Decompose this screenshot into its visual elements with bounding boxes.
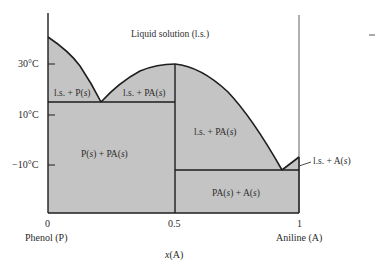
- xtick-label-05: 0.5: [168, 219, 181, 229]
- phase-diagram: [0, 0, 378, 266]
- label-ls-p: l.s. + P(s): [54, 89, 91, 99]
- ls-pa1-post: ): [162, 88, 165, 98]
- xtick-label-1: 1: [297, 219, 302, 229]
- label-ls-pa-left: l.s. + PA(s): [123, 89, 166, 99]
- label-liquid-solution: Liquid solution (l.s.): [131, 30, 209, 40]
- ytick-label-30: 30°C: [18, 59, 39, 69]
- p-pa-3: ): [125, 149, 128, 159]
- pa-a-1: PA(: [212, 188, 226, 198]
- ls-a-pre: l.s. + A(: [313, 156, 344, 166]
- label-ls-pa-right: l.s. + PA(s): [194, 128, 237, 138]
- phenol-label: Phenol (P): [25, 233, 68, 243]
- ls-p-pre: l.s. + P(: [54, 88, 84, 98]
- ls-pa2-post: ): [233, 127, 236, 137]
- label-pa-a: PA(s) + A(s): [212, 189, 260, 199]
- region-ls-pa-right-fill: [175, 64, 282, 170]
- ls-pa2-pre: l.s. + PA(: [194, 127, 230, 137]
- xtick-label-0: 0: [45, 219, 50, 229]
- label-p-pa: P(s) + PA(s): [81, 150, 128, 160]
- x-axis-label: x(A): [165, 250, 183, 260]
- pa-a-2: ) + A(: [230, 188, 253, 198]
- x-axis-label-rest: (A): [169, 249, 183, 260]
- aniline-label: Aniline (A): [276, 233, 322, 243]
- ls-a-post: ): [347, 156, 350, 166]
- label-ls-a: l.s. + A(s): [313, 157, 351, 167]
- p-pa-2: ) + PA(: [93, 149, 121, 159]
- ytick-label-m10: −10°C: [12, 160, 38, 170]
- callout-leader: [299, 162, 311, 166]
- liquid-text: Liquid solution (l.s.): [131, 29, 209, 39]
- ls-pa1-pre: l.s. + PA(: [123, 88, 159, 98]
- pa-a-3: ): [257, 188, 260, 198]
- ytick-label-10: 10°C: [18, 110, 39, 120]
- ls-p-post: ): [87, 88, 90, 98]
